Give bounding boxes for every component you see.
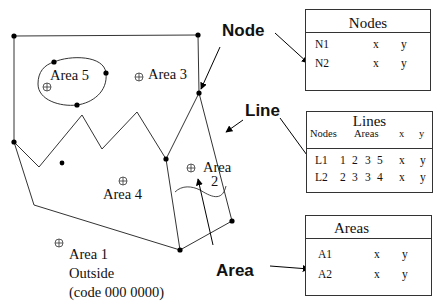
- line-node2: 3: [352, 171, 358, 183]
- line-y: y: [420, 154, 426, 166]
- table-row: L1 1 2 3 5 x y: [307, 151, 432, 168]
- node-dot: [74, 102, 79, 107]
- node-dot: [103, 70, 108, 75]
- lines-table-title: Lines: [307, 114, 432, 129]
- area4-label: Area 4: [103, 186, 143, 202]
- centroid-icon: [187, 164, 195, 172]
- line-area2: 5: [377, 154, 383, 166]
- centroid-icon: [119, 177, 127, 185]
- centroid-markers: [43, 73, 195, 247]
- node-arrow-to-table: [275, 33, 308, 63]
- area3-label: Area 3: [148, 66, 187, 82]
- area-y: y: [402, 268, 408, 280]
- area1-label-line1: Area 1: [69, 246, 108, 262]
- line-area1: 3: [365, 154, 371, 166]
- centroid-icon: [135, 73, 143, 81]
- nodes-table-title: Nodes: [306, 10, 430, 33]
- areas-table: Areas A1 x y A2 x y: [305, 215, 432, 296]
- nodes-table: Nodes N1 x y N2 x y: [305, 9, 431, 91]
- line-id: L1: [315, 154, 328, 166]
- area-id: A2: [318, 268, 332, 280]
- polygon-lines: [14, 35, 232, 250]
- node-dot: [229, 218, 234, 223]
- nodes: [11, 32, 234, 252]
- lines-header-y: y: [419, 128, 424, 139]
- area-y: y: [402, 248, 408, 260]
- line-area1: 3: [365, 171, 371, 183]
- node-y: y: [401, 38, 407, 50]
- area-callout-label: Area: [216, 261, 254, 280]
- node-y: y: [401, 57, 407, 69]
- node-dot: [51, 59, 56, 64]
- area1-label-line2: Outside: [69, 265, 114, 281]
- node-dot: [11, 33, 16, 38]
- area2-label-line2: 2: [211, 173, 218, 189]
- centroid-icon: [55, 239, 63, 247]
- node-dot: [163, 156, 168, 161]
- line-node2: 2: [352, 154, 358, 166]
- area-x: x: [374, 268, 380, 280]
- node-x: x: [373, 57, 379, 69]
- line-area2-left: [166, 159, 180, 250]
- node-callout-label: Node: [222, 21, 265, 40]
- line-x: x: [399, 154, 405, 166]
- node-dot: [195, 32, 200, 37]
- line-arrow-to-diagram: [226, 120, 243, 132]
- node-id: N2: [315, 57, 329, 69]
- area1-label-line3: (code 000 0000): [69, 284, 164, 301]
- lines-header-nodes: Nodes: [310, 128, 337, 139]
- area-x: x: [374, 248, 380, 260]
- node-dot: [177, 247, 182, 252]
- table-row: N2 x y: [306, 54, 430, 73]
- isolated-point: [60, 161, 65, 166]
- centroid-icon: [43, 83, 51, 91]
- line-node1: 1: [340, 154, 346, 166]
- line-bottom-left: [14, 142, 180, 250]
- line-top: [14, 35, 199, 93]
- node-dot: [11, 139, 16, 144]
- line-id: L2: [315, 171, 328, 183]
- line-y: y: [420, 171, 426, 183]
- node-x: x: [373, 38, 379, 50]
- line-zigzag: [14, 93, 199, 167]
- lines-header-areas: Areas: [354, 128, 379, 139]
- node-arrow-to-diagram: [201, 47, 220, 89]
- node-dot: [196, 90, 201, 95]
- area-id: A1: [318, 248, 332, 260]
- node-id: N1: [315, 38, 329, 50]
- table-row: L2 2 3 3 4 x y: [307, 168, 432, 185]
- area-arrow-to-table: [270, 266, 309, 269]
- line-node1: 2: [340, 171, 346, 183]
- table-row: A2 x y: [306, 265, 431, 284]
- areas-table-title: Areas: [306, 216, 431, 239]
- line-callout-label: Line: [245, 101, 280, 120]
- table-row: A1 x y: [306, 245, 431, 264]
- line-area2: 4: [377, 171, 383, 183]
- line-x: x: [399, 171, 405, 183]
- lines-table: Lines Nodes Areas x y L1 1 2 3 5 x y L2 …: [306, 111, 433, 193]
- table-row: N1 x y: [306, 35, 430, 54]
- area5-label: Area 5: [50, 67, 89, 83]
- lines-header-x: x: [399, 128, 404, 139]
